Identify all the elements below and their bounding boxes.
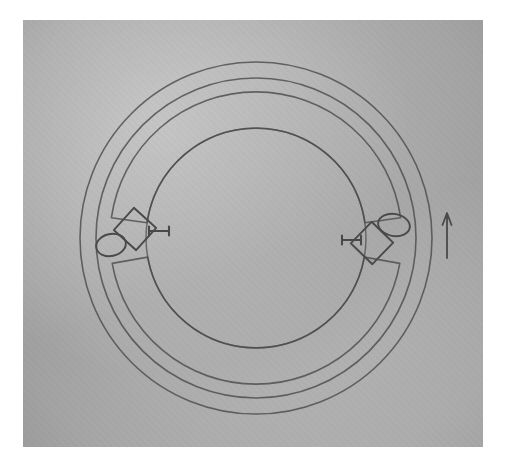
innermost-circle: [146, 128, 366, 348]
technical-drawing: [0, 0, 510, 475]
right-ellipse: [376, 211, 411, 238]
page-root: [0, 0, 510, 475]
second-circle: [96, 78, 416, 398]
up-arrow-icon: [443, 213, 452, 258]
figure-caption: [23, 452, 483, 470]
upper-arc-segment: [111, 92, 400, 223]
left-ellipse: [94, 231, 128, 259]
outermost-circle: [80, 62, 432, 414]
left-dimension-marker: [149, 227, 169, 236]
lower-arc-segment: [112, 257, 400, 384]
drawing-ink-layer: [80, 62, 452, 414]
